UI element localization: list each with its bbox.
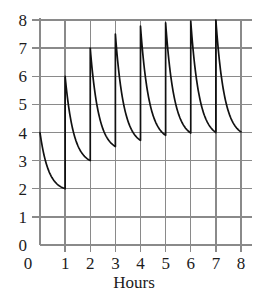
- x-axis-tick-label: 3: [111, 254, 120, 273]
- y-axis-tick-label: 1: [19, 208, 28, 227]
- y-axis-tick-label: 8: [19, 11, 28, 30]
- x-axis-title: Hours: [113, 273, 155, 292]
- x-axis-tick-label: 8: [237, 254, 246, 273]
- y-axis-tick-label: 4: [19, 124, 28, 143]
- y-axis-tick-label: 3: [19, 152, 28, 171]
- chart-container: 012345678 012345678 Hours: [0, 0, 268, 302]
- y-axis-tick-label: 5: [19, 95, 28, 114]
- y-axis-tick-label: 0: [19, 236, 28, 255]
- x-axis-tick-label: 1: [61, 254, 70, 273]
- x-axis-tick-label: 0: [24, 254, 33, 273]
- x-axis-tick-label: 5: [161, 254, 170, 273]
- y-axis-tick-label: 2: [19, 180, 28, 199]
- y-axis-tick-labels: 012345678: [19, 11, 28, 255]
- y-axis-tick-label: 6: [19, 67, 28, 86]
- x-axis-tick-label: 2: [86, 254, 95, 273]
- x-axis-tick-label: 6: [187, 254, 196, 273]
- concentration-sawtooth-chart: 012345678 012345678 Hours: [0, 0, 268, 302]
- x-axis-tick-label: 4: [136, 254, 145, 273]
- y-axis-tick-label: 7: [19, 39, 28, 58]
- x-axis-tick-label: 7: [212, 254, 221, 273]
